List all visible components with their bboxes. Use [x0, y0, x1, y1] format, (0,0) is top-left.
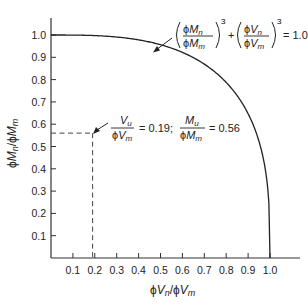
svg-text:ϕVm: ϕVm — [112, 129, 133, 143]
x-tick-label: 0.5 — [153, 264, 168, 276]
equation-arrowhead — [153, 46, 160, 53]
svg-text:ϕVm: ϕVm — [244, 37, 265, 51]
y-tick-label: 0.4 — [31, 163, 46, 175]
svg-text:Vu: Vu — [120, 114, 132, 128]
y-tick-label: 0.1 — [31, 230, 46, 242]
point-arrowhead — [93, 127, 100, 134]
point-arrow-line — [97, 123, 108, 130]
x-tick-label: 0.1 — [66, 264, 81, 276]
x-tick-label: 1.0 — [263, 264, 278, 276]
x-ticks: 0.10.20.30.40.50.60.70.80.91.0 — [66, 253, 278, 276]
x-tick-label: 0.7 — [197, 264, 212, 276]
svg-text:= 0.19;: = 0.19; — [139, 122, 173, 134]
y-ticks: 0.10.20.30.40.50.60.70.80.91.0 — [31, 29, 56, 242]
x-axis-label: ϕVn/ϕVm — [150, 283, 196, 298]
x-tick-label: 0.6 — [175, 264, 190, 276]
x-tick-label: 0.4 — [131, 264, 146, 276]
svg-text:ϕVn: ϕVn — [244, 23, 263, 37]
svg-text:ϕMm: ϕMm — [180, 129, 202, 143]
equation-annotation: ϕMn ϕMm 3 + ϕVn ϕVm 3 = 1.0 — [153, 17, 308, 53]
dashed-guides — [51, 133, 93, 258]
interaction-chart: 0.10.20.30.40.50.60.70.80.91.0 0.10.20.3… — [0, 0, 308, 305]
svg-text:= 0.56: = 0.56 — [209, 122, 240, 134]
y-tick-label: 0.2 — [31, 207, 46, 219]
left-paren-2 — [238, 22, 242, 48]
right-paren-2 — [272, 22, 276, 48]
x-tick-label: 0.3 — [109, 264, 124, 276]
y-tick-label: 0.3 — [31, 185, 46, 197]
point-annotation: Vu ϕVm = 0.19; Mu ϕMm = 0.56 — [93, 114, 240, 143]
svg-text:ϕMn: ϕMn — [183, 23, 203, 37]
svg-text:ϕMm: ϕMm — [183, 37, 205, 51]
x-tick-label: 0.8 — [219, 264, 234, 276]
x-tick-label: 0.2 — [87, 264, 102, 276]
y-tick-label: 0.6 — [31, 118, 46, 130]
svg-text:+: + — [228, 29, 234, 41]
x-tick-label: 0.9 — [241, 264, 256, 276]
svg-text:3: 3 — [221, 17, 226, 26]
svg-text:Mu: Mu — [185, 114, 199, 128]
y-tick-label: 0.7 — [31, 96, 46, 108]
interaction-curve — [51, 35, 270, 258]
y-tick-label: 0.8 — [31, 74, 46, 86]
y-tick-label: 1.0 — [31, 29, 46, 41]
right-paren-1 — [216, 22, 220, 48]
y-tick-label: 0.5 — [31, 141, 46, 153]
y-tick-label: 0.9 — [31, 51, 46, 63]
y-axis-label: ϕMn/ϕMm — [5, 118, 20, 168]
svg-text:= 1.0: = 1.0 — [283, 29, 308, 41]
axes — [51, 18, 300, 258]
left-paren-1 — [177, 22, 181, 48]
svg-text:3: 3 — [277, 17, 282, 26]
